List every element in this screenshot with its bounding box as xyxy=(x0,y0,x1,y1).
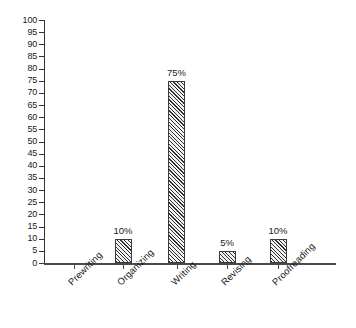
y-axis-tick-label: 20 xyxy=(27,210,37,219)
y-axis-tick xyxy=(39,56,44,57)
y-axis-tick xyxy=(39,178,44,179)
y-axis-tick xyxy=(39,81,44,82)
x-axis-tick xyxy=(177,265,178,269)
y-axis-tick xyxy=(39,263,44,264)
y-axis-tick-label: 85 xyxy=(27,52,37,61)
y-axis-tick-label: 90 xyxy=(27,40,37,49)
y-axis-tick xyxy=(39,227,44,228)
y-axis-tick-label: 95 xyxy=(27,28,37,37)
y-axis-tick-label: 30 xyxy=(27,186,37,195)
y-axis-tick xyxy=(39,117,44,118)
bar-chart: 0510152025303540455055606570758085909510… xyxy=(0,0,356,328)
y-axis-tick xyxy=(39,166,44,167)
y-axis-tick-label: 35 xyxy=(27,173,37,182)
y-axis-tick xyxy=(39,142,44,143)
y-axis-tick xyxy=(39,44,44,45)
y-axis-tick-label: 50 xyxy=(27,137,37,146)
y-axis-tick-label: 65 xyxy=(27,101,37,110)
x-axis-tick xyxy=(227,265,228,269)
y-axis-tick xyxy=(39,239,44,240)
y-axis-tick-label: 45 xyxy=(27,149,37,158)
y-axis-tick-label: 75 xyxy=(27,76,37,85)
y-axis-tick-label: 25 xyxy=(27,198,37,207)
bar-proofreading xyxy=(270,239,287,263)
y-axis-line xyxy=(44,20,45,264)
bar-value-label-writing: 75% xyxy=(157,68,197,78)
bar-organizing xyxy=(115,239,132,263)
bar-value-label-organizing: 10% xyxy=(103,226,143,236)
bar-value-label-proofreading: 10% xyxy=(258,226,298,236)
y-axis-tick-label: 55 xyxy=(27,125,37,134)
y-axis-tick-label: 40 xyxy=(27,161,37,170)
y-axis-tick xyxy=(39,20,44,21)
bar-value-label-revising: 5% xyxy=(207,238,247,248)
y-axis-tick xyxy=(39,69,44,70)
y-axis-tick xyxy=(39,129,44,130)
y-axis-tick xyxy=(39,251,44,252)
y-axis-tick xyxy=(39,214,44,215)
y-axis-tick-label: 15 xyxy=(27,222,37,231)
y-axis-tick-label: 10 xyxy=(27,234,37,243)
x-axis-label-prewriting: Prewriting xyxy=(66,250,104,288)
y-axis-tick-label: 5 xyxy=(32,246,37,255)
bar-writing xyxy=(168,81,185,263)
y-axis-tick-label: 60 xyxy=(27,113,37,122)
y-axis-tick-label: 0 xyxy=(32,259,37,268)
y-axis-tick xyxy=(39,190,44,191)
y-axis-tick xyxy=(39,93,44,94)
y-axis-tick xyxy=(39,154,44,155)
y-axis-tick xyxy=(39,202,44,203)
y-axis-tick-label: 80 xyxy=(27,64,37,73)
bar-revising xyxy=(219,251,236,263)
y-axis-tick xyxy=(39,105,44,106)
y-axis-tick-label: 70 xyxy=(27,88,37,97)
x-axis-tick xyxy=(74,265,75,269)
x-axis-tick xyxy=(278,265,279,269)
x-axis-tick xyxy=(123,265,124,269)
y-axis-tick xyxy=(39,32,44,33)
y-axis-tick-label: 100 xyxy=(23,16,37,25)
